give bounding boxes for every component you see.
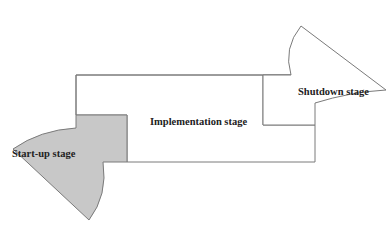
implementation-stage-label: Implementation stage: [150, 116, 247, 127]
startup-stage-label: Start-up stage: [12, 148, 76, 159]
shutdown-stage-shape: [263, 26, 386, 125]
startup-stage-shape: [13, 115, 127, 220]
shutdown-stage-label: Shutdown stage: [298, 86, 369, 97]
stage-diagram: Start-up stage Implementation stage Shut…: [0, 0, 389, 230]
